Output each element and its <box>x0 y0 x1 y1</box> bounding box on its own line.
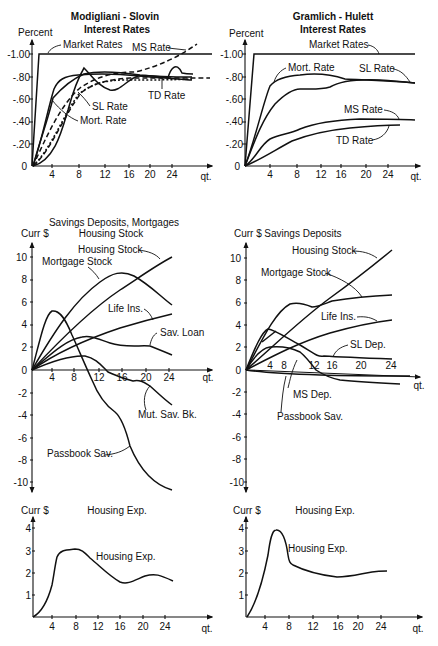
y-axis-label: Curr $ <box>21 505 49 516</box>
svg-text:8: 8 <box>21 274 27 285</box>
y-axis-label: Curr $ <box>21 228 49 239</box>
chart-subtitle: Interest Rates <box>300 24 367 35</box>
chart-subtitle: Housing Stock <box>79 228 144 239</box>
svg-text:-1.00: -1.00 <box>220 49 243 60</box>
svg-text:16: 16 <box>332 621 344 632</box>
y-ticks: 1 2 3 4 <box>25 523 35 601</box>
svg-text:4: 4 <box>267 169 273 180</box>
y-axis-label: Percent <box>229 28 264 39</box>
series-mortgage-stock <box>32 273 172 370</box>
svg-text:-.60: -.60 <box>226 94 244 105</box>
svg-text:20: 20 <box>352 621 364 632</box>
svg-text:qt.: qt. <box>410 171 421 182</box>
y-axis-label: Curr $ <box>233 505 261 516</box>
svg-text:-.40: -.40 <box>226 116 244 127</box>
svg-text:-2: -2 <box>232 387 241 398</box>
svg-text:12: 12 <box>92 621 104 632</box>
chart-title: Housing Exp. <box>295 505 354 516</box>
svg-text:2: 2 <box>21 342 27 353</box>
label-housing-exp: Housing Exp. <box>288 543 347 554</box>
label-market-rates: Market Rates <box>63 39 122 50</box>
svg-text:0: 0 <box>21 161 27 172</box>
label-life-ins: Life Ins. <box>108 303 143 314</box>
chart-title: Gramlich - Hulett <box>293 11 374 22</box>
svg-text:-.60: -.60 <box>13 94 31 105</box>
label-mort-rate: Mort. Rate <box>288 62 335 73</box>
svg-text:2: 2 <box>238 568 244 579</box>
label-mortgage-stock: Mortgage Stock <box>261 267 332 278</box>
svg-text:16: 16 <box>335 169 347 180</box>
svg-text:4: 4 <box>25 523 31 534</box>
svg-text:0: 0 <box>235 365 241 376</box>
chart-subtitle: Interest Rates <box>84 24 151 35</box>
svg-text:3: 3 <box>25 546 31 557</box>
svg-text:12: 12 <box>93 372 105 383</box>
series-td-rate <box>245 125 400 166</box>
label-ms-dep: MS Dep. <box>293 389 332 400</box>
y-axis-label: Percent <box>18 27 53 38</box>
x-ticks: 4 8 12 16 20 24 qt. <box>49 615 212 634</box>
svg-text:3: 3 <box>238 546 244 557</box>
svg-text:2: 2 <box>235 342 241 353</box>
label-mort-rate: Mort. Rate <box>80 115 127 126</box>
svg-text:qt.: qt. <box>413 380 424 391</box>
svg-text:-10: -10 <box>230 477 245 488</box>
chart-title: Housing Exp. <box>87 505 146 516</box>
chart-mod-slovin-housing-exp: Curr $ Housing Exp. 1 2 3 4 4 8 12 16 20… <box>21 505 213 634</box>
svg-text:24: 24 <box>375 621 387 632</box>
svg-text:4: 4 <box>235 320 241 331</box>
svg-text:16: 16 <box>114 621 126 632</box>
label-ms-rate: MS Rate <box>132 42 171 53</box>
chart-title: Savings Deposits, Mortgages <box>49 217 179 228</box>
svg-text:6: 6 <box>235 297 241 308</box>
svg-text:8: 8 <box>235 275 241 286</box>
svg-text:12: 12 <box>307 621 319 632</box>
label-housing-exp: Housing Exp. <box>96 551 155 562</box>
label-housing-stock: Housing Stock <box>78 244 143 255</box>
svg-text:24: 24 <box>159 621 171 632</box>
label-passbook-sav: Passbook Sav. <box>47 448 113 459</box>
svg-text:-4: -4 <box>18 410 27 421</box>
label-ms-rate: MS Rate <box>344 104 383 115</box>
y-ticks: 0 -.20 -.40 -.60 -.80 -1.00 <box>220 49 246 172</box>
chart-mod-slovin-rates: Modigliani - Slovin Interest Rates Perce… <box>7 11 212 182</box>
svg-text:16: 16 <box>326 360 338 371</box>
series-ms-rate <box>245 119 415 166</box>
chart-title: Savings Deposits <box>264 228 341 239</box>
svg-text:qt.: qt. <box>202 372 213 383</box>
svg-text:8: 8 <box>71 372 77 383</box>
svg-text:2: 2 <box>25 568 31 579</box>
series-passbook-sav <box>32 311 172 490</box>
svg-text:-1.00: -1.00 <box>7 49 30 60</box>
svg-text:-.20: -.20 <box>226 139 244 150</box>
svg-text:4: 4 <box>21 319 27 330</box>
label-sl-rate: SL Rate <box>92 101 128 112</box>
svg-text:-2: -2 <box>18 388 27 399</box>
svg-text:0: 0 <box>21 365 27 376</box>
svg-text:-8: -8 <box>232 454 241 465</box>
chart-gram-hulett-housing-exp: Curr $ Housing Exp. 1 2 3 4 4 8 12 16 20… <box>233 505 424 634</box>
svg-text:1: 1 <box>238 590 244 601</box>
svg-text:qt.: qt. <box>200 171 211 182</box>
svg-text:24: 24 <box>385 360 397 371</box>
svg-text:12: 12 <box>315 169 327 180</box>
label-mortgage-stock: Mortgage Stock <box>42 256 113 267</box>
svg-text:-6: -6 <box>232 432 241 443</box>
y-axis-label: Curr $ <box>234 228 262 239</box>
svg-text:20: 20 <box>355 360 367 371</box>
svg-text:-10: -10 <box>14 477 29 488</box>
svg-text:20: 20 <box>360 169 372 180</box>
svg-text:0: 0 <box>234 161 240 172</box>
y-ticks: 0 -.20 -.40 -.60 -.80 -1.00 <box>7 49 33 172</box>
chart-mod-slovin-stocks: Savings Deposits, Mortgages Housing Stoc… <box>14 217 214 492</box>
y-ticks: 10 8 6 4 2 0 -2 -4 -6 -8 -10 <box>14 252 33 488</box>
svg-text:10: 10 <box>16 252 28 263</box>
chart-gram-hulett-rates: Gramlich - Hulett Interest Rates Percent… <box>220 11 421 182</box>
label-td-rate: TD Rate <box>148 90 186 101</box>
svg-text:-4: -4 <box>232 409 241 420</box>
chart-gram-hulett-stocks: Savings Deposits Curr $ 10 8 6 4 2 0 -2 … <box>230 228 425 492</box>
svg-text:4: 4 <box>267 360 273 371</box>
label-market-rates: Market Rates <box>309 39 368 50</box>
svg-text:8: 8 <box>281 360 287 371</box>
svg-text:4: 4 <box>49 372 55 383</box>
